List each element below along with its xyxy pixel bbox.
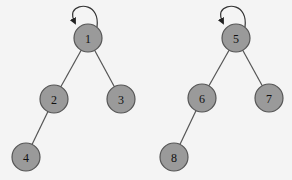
node-3[interactable]: 3 — [107, 85, 135, 113]
node-label: 4 — [23, 151, 29, 165]
tree-diagram-svg: 1 2 3 4 5 — [0, 0, 292, 180]
node-label: 6 — [199, 92, 205, 106]
node-label: 7 — [266, 92, 272, 106]
node-label: 1 — [85, 32, 91, 46]
node-7[interactable]: 7 — [255, 84, 283, 112]
node-8[interactable]: 8 — [160, 143, 188, 171]
node-label: 3 — [118, 93, 124, 107]
tree-2: 5 6 7 8 — [160, 6, 283, 171]
node-label: 5 — [233, 32, 239, 46]
node-5[interactable]: 5 — [222, 24, 250, 52]
node-6[interactable]: 6 — [188, 84, 216, 112]
node-2[interactable]: 2 — [40, 85, 68, 113]
node-label: 8 — [171, 151, 177, 165]
diagram-canvas: 1 2 3 4 5 — [0, 0, 292, 180]
node-4[interactable]: 4 — [12, 143, 40, 171]
node-label: 2 — [51, 93, 57, 107]
node-1[interactable]: 1 — [74, 24, 102, 52]
tree-1: 1 2 3 4 — [12, 6, 135, 171]
